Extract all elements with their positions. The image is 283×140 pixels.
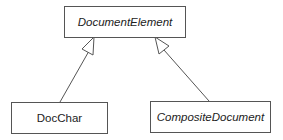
class-name: CompositeDocument xyxy=(157,111,264,123)
generalization-docchar xyxy=(60,37,94,102)
hollow-triangle-arrowhead-icon xyxy=(155,37,169,54)
hollow-triangle-arrowhead-icon xyxy=(82,37,94,55)
generalization-compositedocument xyxy=(155,37,209,101)
class-document-element: DocumentElement xyxy=(64,6,186,38)
class-name: DocChar xyxy=(37,112,82,124)
class-composite-document: CompositeDocument xyxy=(150,101,271,133)
class-doc-char: DocChar xyxy=(11,102,108,134)
class-name: DocumentElement xyxy=(78,16,173,28)
